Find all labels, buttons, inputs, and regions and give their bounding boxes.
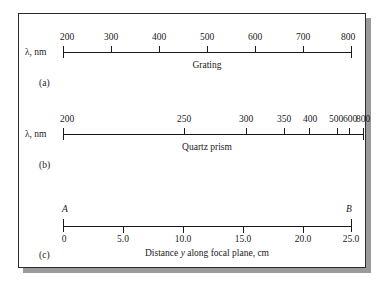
figure-frame: λ, nm 200 300 400 500 600 700 800 Gratin… [18,13,366,268]
tick-grating-300 [111,46,112,53]
tick-label-quartz-800: 800 [356,114,370,124]
tick-label-quartz-250: 250 [177,114,191,124]
endmark-b: B [346,204,352,214]
tick-label-distance-20: 20.0 [295,234,312,244]
tick-grating-700 [303,46,304,53]
panel-grating: λ, nm 200 300 400 500 600 700 800 Gratin… [19,20,367,102]
caption-distance-pre: Distance [145,248,181,258]
axis-endcap-left-grating [63,46,64,58]
caption-grating: Grating [192,60,221,70]
tick-label-grating-400: 400 [152,32,166,42]
tick-label-grating-200: 200 [60,32,74,42]
tick-label-distance-25: 25.0 [343,234,360,244]
tick-label-distance-15: 15.0 [235,234,252,244]
tick-label-grating-600: 600 [248,32,262,42]
tick-label-quartz-200: 200 [60,114,74,124]
axis-endcap-left-quartz [63,128,64,140]
axis-endcap-right-grating [351,46,352,58]
tick-label-grating-800: 800 [341,32,355,42]
tick-distance-5 [123,226,124,233]
tick-quartz-500 [337,128,338,135]
tick-label-grating-700: 700 [296,32,310,42]
tick-grating-600 [255,46,256,53]
tick-grating-500 [207,46,208,53]
caption-distance-post: along focal plane, cm [185,248,269,258]
axis-endcap-left-distance [63,219,64,232]
panel-label-b: (b) [39,160,50,170]
axis-name-lambda-a: λ, nm [25,47,47,57]
tick-quartz-600 [349,128,350,135]
axis-endcap-right-distance [351,219,352,232]
tick-label-quartz-400: 400 [303,114,317,124]
tick-quartz-350 [284,128,285,135]
axis-endcap-right-quartz [363,128,364,140]
panel-label-a: (a) [39,78,50,88]
endmark-a: A [62,204,68,214]
tick-quartz-250 [184,128,185,135]
tick-quartz-300 [246,128,247,135]
tick-label-quartz-500: 500 [329,114,343,124]
tick-grating-400 [159,46,160,53]
tick-distance-20 [303,226,304,233]
tick-label-grating-300: 300 [104,32,118,42]
figure-root: λ, nm 200 300 400 500 600 700 800 Gratin… [0,0,386,299]
tick-quartz-400 [309,128,310,135]
tick-distance-10 [183,226,184,233]
tick-label-distance-5: 5.0 [117,234,129,244]
panel-quartz-prism: λ, nm 200 250 300 350 400 500 600 800 Qu… [19,102,367,184]
caption-distance: Distance y along focal plane, cm [145,248,269,258]
tick-label-distance-0: 0 [62,234,67,244]
tick-label-quartz-300: 300 [239,114,253,124]
axis-line-distance [63,226,351,227]
axis-line-quartz [63,134,363,135]
axis-name-lambda-b: λ, nm [25,129,47,139]
tick-distance-15 [243,226,244,233]
panel-focal-plane-distance: A B 0 5.0 10.0 15.0 20.0 25.0 Distance y… [19,194,367,269]
tick-label-quartz-350: 350 [277,114,291,124]
tick-label-distance-10: 10.0 [175,234,192,244]
caption-quartz-prism: Quartz prism [182,142,232,152]
panel-label-c: (c) [39,250,50,260]
tick-label-grating-500: 500 [200,32,214,42]
